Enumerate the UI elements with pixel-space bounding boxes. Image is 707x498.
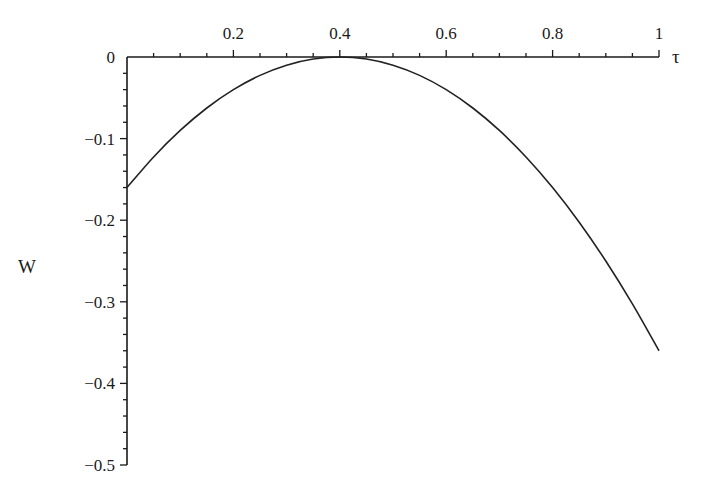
y-tick-label: −0.3 xyxy=(84,293,115,312)
x-tick-label: 0.2 xyxy=(223,24,244,43)
y-tick-label: −0.1 xyxy=(84,130,115,149)
y-tick-label: 0 xyxy=(107,48,116,67)
chart: 0.20.40.60.81 0−0.1−0.2−0.3−0.4−0.5 τ W xyxy=(0,0,707,498)
x-tick-label: 0.6 xyxy=(436,24,457,43)
x-axis-label: τ xyxy=(672,46,680,67)
y-tick-labels: 0−0.1−0.2−0.3−0.4−0.5 xyxy=(84,48,115,475)
y-tick-label: −0.4 xyxy=(84,374,115,393)
x-tick-label: 0.4 xyxy=(329,24,351,43)
x-tick-labels: 0.20.40.60.81 xyxy=(223,24,663,43)
series-line-0 xyxy=(127,57,659,351)
x-tick-label: 0.8 xyxy=(542,24,563,43)
y-axis-label: W xyxy=(18,256,36,277)
y-tick-label: −0.2 xyxy=(84,211,115,230)
axes xyxy=(127,57,659,465)
x-ticks xyxy=(154,50,659,57)
series-group xyxy=(127,57,659,351)
y-tick-label: −0.5 xyxy=(84,456,115,475)
x-tick-label: 1 xyxy=(655,24,664,43)
y-ticks xyxy=(120,73,127,465)
